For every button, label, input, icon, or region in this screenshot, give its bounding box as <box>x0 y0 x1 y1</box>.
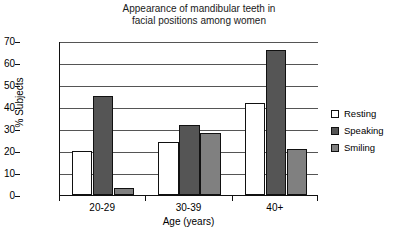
bar-group <box>146 42 232 195</box>
chart-title-line-2: facial positions among women <box>0 15 398 27</box>
chart-legend: RestingSpeakingSmiling <box>331 106 384 157</box>
bar[interactable] <box>287 149 308 195</box>
y-tick-mark <box>15 108 20 109</box>
legend-swatch <box>331 144 339 152</box>
bar[interactable] <box>179 125 200 195</box>
y-tick-label: 70 <box>4 37 15 47</box>
y-tick-label: 10 <box>4 169 15 179</box>
x-tick-mark <box>232 196 233 201</box>
x-tick-mark <box>59 196 60 201</box>
x-tick-mark <box>145 196 146 201</box>
chart-title: Appearance of mandibular teeth in facial… <box>0 3 398 27</box>
y-tick-label: 60 <box>4 59 15 69</box>
bar[interactable] <box>72 151 93 195</box>
bar[interactable] <box>266 50 287 195</box>
legend-item[interactable]: Smiling <box>331 140 384 155</box>
bar-group <box>60 42 146 195</box>
bar-group <box>233 42 319 195</box>
x-tick-label: 30-39 <box>176 202 202 214</box>
plot-area <box>59 42 318 196</box>
y-tick-mark <box>15 152 20 153</box>
y-tick-mark <box>15 42 20 43</box>
legend-swatch <box>331 127 339 135</box>
legend-label: Speaking <box>344 126 384 136</box>
bar[interactable] <box>200 133 221 195</box>
bar[interactable] <box>158 142 179 195</box>
bar[interactable] <box>245 103 266 195</box>
legend-item[interactable]: Resting <box>331 106 384 121</box>
y-axis: % Subjects 010203040506070 <box>0 0 59 239</box>
x-axis-labels: 20-2930-3940+ <box>59 202 318 216</box>
legend-label: Resting <box>344 109 376 119</box>
x-tick-label: 40+ <box>266 202 283 214</box>
x-tick-label: 20-29 <box>89 202 115 214</box>
legend-label: Smiling <box>344 143 375 153</box>
bar[interactable] <box>114 188 135 195</box>
y-tick-mark <box>15 196 20 197</box>
bar-series-container <box>60 42 318 195</box>
y-tick-label: 20 <box>4 147 15 157</box>
y-tick-label: 40 <box>4 103 15 113</box>
y-tick-mark <box>15 86 20 87</box>
y-axis-title: % Subjects <box>14 77 25 127</box>
x-tick-mark <box>317 196 318 201</box>
y-tick-mark <box>15 130 20 131</box>
y-tick-mark <box>15 174 20 175</box>
chart-title-line-1: Appearance of mandibular teeth in <box>0 3 398 15</box>
y-tick-mark <box>15 64 20 65</box>
x-axis-title: Age (years) <box>59 216 318 227</box>
legend-swatch <box>331 110 339 118</box>
legend-item[interactable]: Speaking <box>331 123 384 138</box>
y-tick-label: 30 <box>4 125 15 135</box>
bar[interactable] <box>93 96 114 195</box>
y-tick-label: 50 <box>4 81 15 91</box>
